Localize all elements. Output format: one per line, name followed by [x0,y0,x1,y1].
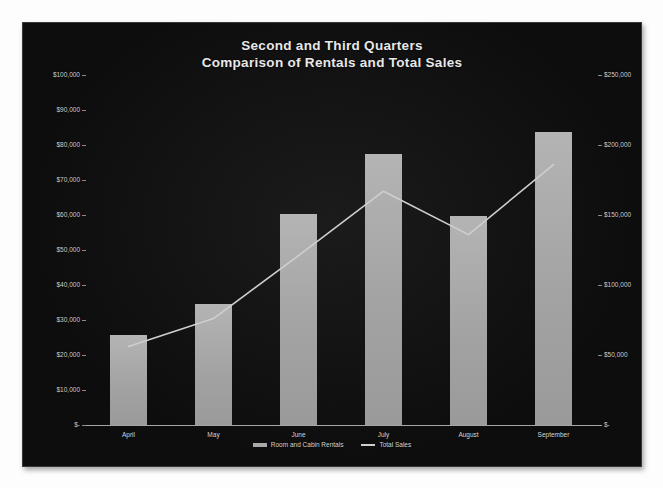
chart-panel: Second and Third Quarters Comparison of … [22,22,642,467]
chart-title: Second and Third Quarters Comparison of … [23,37,641,71]
y-axis-left-tick-label: $80,000 [25,141,80,148]
y-axis-right-tick-label: $150,000 [604,211,642,218]
x-axis-category-label: April [89,431,169,438]
legend-item-label: Total Sales [379,441,411,448]
y-axis-right-tick-label: $200,000 [604,141,642,148]
x-axis-category-label: September [514,431,594,438]
legend-line-swatch-icon [361,444,375,446]
x-axis-category-label: May [174,431,254,438]
chart-title-line-1: Second and Third Quarters [23,37,641,54]
y-axis-right-tick-mark [598,145,602,146]
legend-item: Room and Cabin Rentals [253,441,344,448]
chart-title-line-2: Comparison of Rentals and Total Sales [23,54,641,71]
screenshot-page: Second and Third Quarters Comparison of … [0,0,663,488]
x-axis-category-label: June [259,431,339,438]
y-axis-right-tick-label: $100,000 [604,281,642,288]
y-axis-right-tick-label: $250,000 [604,71,642,78]
y-axis-left-tick-label: $60,000 [25,211,80,218]
x-axis-category-label: August [429,431,509,438]
y-axis-right-tick-label: $50,000 [604,351,642,358]
y-axis-right-tick-mark [598,285,602,286]
y-axis-left-tick-label: $30,000 [25,316,80,323]
x-axis-line [86,425,602,426]
x-axis-category-label: July [344,431,424,438]
y-axis-left-tick-label: $100,000 [25,71,80,78]
y-axis-right-tick-label: $- [604,421,642,428]
y-axis-right-tick-mark [598,355,602,356]
y-axis-right-tick-mark [598,215,602,216]
legend-bar-swatch-icon [253,443,267,447]
y-axis-left-tick-label: $50,000 [25,246,80,253]
y-axis-left-tick-label: $70,000 [25,176,80,183]
y-axis-left-tick-label: $10,000 [25,386,80,393]
y-axis-right-tick-mark [598,75,602,76]
y-axis-left-tick-label: $20,000 [25,351,80,358]
chart-legend: Room and Cabin RentalsTotal Sales [23,441,641,448]
total-sales-polyline [129,165,554,347]
legend-item-label: Room and Cabin Rentals [271,441,344,448]
y-axis-left-tick-label: $90,000 [25,106,80,113]
line-series-total-sales [86,75,596,425]
plot-area [86,75,596,425]
y-axis-left-tick-label: $40,000 [25,281,80,288]
legend-item: Total Sales [361,441,411,448]
y-axis-left-tick-label: $- [25,421,80,428]
